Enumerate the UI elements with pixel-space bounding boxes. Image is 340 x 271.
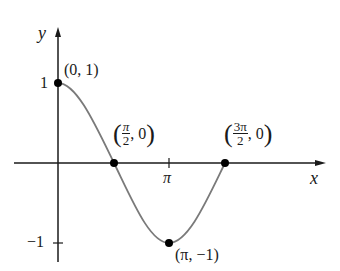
point-label-three-half-pi: (3π2, 0) bbox=[224, 120, 272, 147]
fraction-denominator: 2 bbox=[237, 134, 244, 147]
point-half-pi-marker bbox=[110, 159, 118, 167]
tick-label-one: 1 bbox=[40, 74, 48, 92]
point-origin-marker bbox=[54, 79, 62, 87]
paren-close: ) bbox=[264, 119, 273, 148]
graph-canvas bbox=[0, 0, 340, 271]
fraction-three-pi-over-2: 3π2 bbox=[233, 120, 248, 147]
fraction-denominator: 2 bbox=[123, 134, 130, 147]
tick-label-neg-one: −1 bbox=[27, 233, 44, 251]
fraction-pi-over-2: π2 bbox=[122, 120, 131, 147]
paren-close: ) bbox=[146, 119, 155, 148]
fraction-numerator: 3π bbox=[233, 120, 248, 134]
point-tail: , 0 bbox=[130, 125, 146, 142]
fraction-numerator: π bbox=[122, 120, 131, 134]
y-axis-arrow-icon bbox=[55, 27, 61, 37]
point-tail: , 0 bbox=[248, 125, 264, 142]
paren-open: ( bbox=[224, 119, 233, 148]
x-axis-label: x bbox=[310, 168, 318, 189]
point-label-half-pi: (π2, 0) bbox=[113, 120, 155, 147]
paren-open: ( bbox=[113, 119, 122, 148]
point-label-min: (π, −1) bbox=[175, 246, 219, 264]
x-axis-arrow-icon bbox=[315, 160, 326, 166]
tick-label-pi: π bbox=[163, 169, 171, 187]
point-label-origin: (0, 1) bbox=[64, 61, 99, 79]
point-three-half-pi-marker bbox=[221, 159, 229, 167]
point-pi-marker bbox=[165, 239, 173, 247]
y-axis-label: y bbox=[38, 23, 46, 44]
